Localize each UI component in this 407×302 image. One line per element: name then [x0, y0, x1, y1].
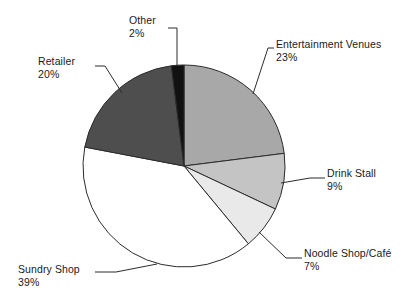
- pie-label-entertainment-venues: Entertainment Venues 23%: [276, 38, 381, 64]
- leader-line-other: [168, 28, 177, 66]
- pie-slice-entertainment-venues[interactable]: [184, 65, 284, 166]
- pie-label-other-name: Other: [129, 14, 156, 27]
- leader-line-drink-stall: [281, 178, 325, 183]
- pie-label-sundry-shop: Sundry Shop 39%: [18, 263, 80, 289]
- leader-line-noodle-shop-cafe: [259, 232, 302, 258]
- pie-label-noodle-shop-cafe-name: Noodle Shop/Café: [304, 247, 391, 260]
- pie-label-sundry-shop-name: Sundry Shop: [18, 263, 80, 276]
- pie-label-noodle-shop-cafe: Noodle Shop/Café 7%: [304, 247, 391, 273]
- leader-line-entertainment-venues: [253, 48, 274, 94]
- leader-line-sundry-shop: [95, 264, 157, 272]
- pie-label-other: Other 2%: [129, 14, 156, 40]
- pie-label-entertainment-venues-value: 23%: [276, 51, 381, 64]
- pie-label-retailer-name: Retailer: [38, 55, 75, 68]
- pie-label-drink-stall: Drink Stall 9%: [327, 167, 376, 193]
- pie-label-entertainment-venues-name: Entertainment Venues: [276, 38, 381, 51]
- pie-label-retailer-value: 20%: [38, 68, 75, 81]
- pie-label-drink-stall-value: 9%: [327, 180, 376, 193]
- pie-label-other-value: 2%: [129, 27, 156, 40]
- pie-label-noodle-shop-cafe-value: 7%: [304, 260, 391, 273]
- pie-chart: Other 2% Entertainment Venues 23% Drink …: [0, 0, 407, 302]
- pie-label-retailer: Retailer 20%: [38, 55, 75, 81]
- pie-label-sundry-shop-value: 39%: [18, 276, 80, 289]
- pie-label-drink-stall-name: Drink Stall: [327, 167, 376, 180]
